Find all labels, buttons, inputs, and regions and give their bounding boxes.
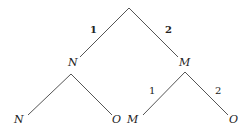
edge-label-root-left: 1 — [90, 24, 97, 35]
edge-left-right — [71, 74, 112, 115]
node-right: M — [178, 56, 191, 69]
edge-left-left — [28, 74, 71, 115]
node-left: N — [67, 56, 78, 69]
edge-right-right — [185, 72, 228, 115]
leaf-left-right: O — [112, 113, 121, 126]
leaf-right-right: O — [229, 113, 238, 126]
edge-label-root-right: 2 — [165, 24, 172, 35]
edge-label-right-left: 1 — [149, 85, 155, 96]
leaf-left-left: N — [13, 113, 24, 126]
tree-diagram: 1 2 N M 1 2 N O M O — [0, 0, 250, 132]
leaf-right-left: M — [126, 113, 139, 126]
edge-root-left — [80, 8, 129, 57]
edge-label-right-right: 2 — [215, 85, 221, 96]
